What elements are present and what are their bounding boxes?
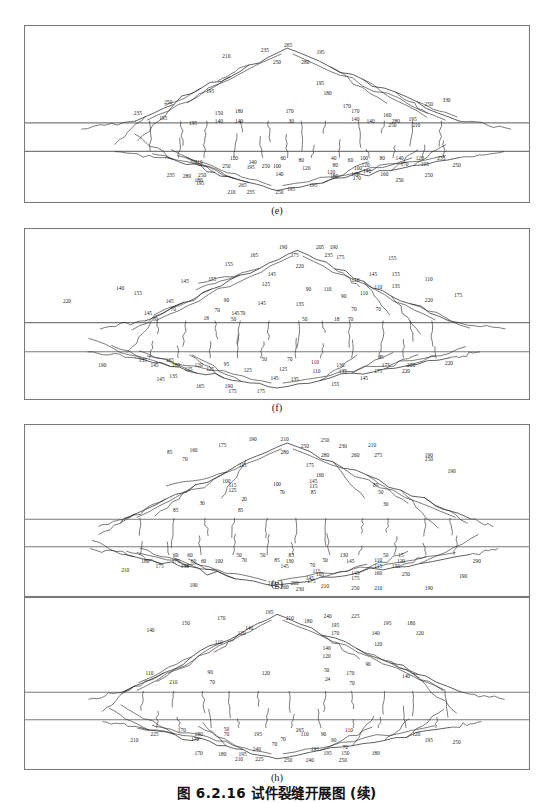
crack-load-label: 250	[339, 758, 347, 764]
panel-h: 1951702102402251501801951801401401951201…	[24, 597, 530, 770]
crack-load-label: 195	[316, 81, 324, 87]
crack-load-label: 30	[383, 503, 388, 509]
crack-load-label: 280	[301, 61, 309, 67]
crack-load-label: 110	[313, 369, 321, 375]
crack-load-label: 70	[349, 681, 354, 687]
crack-load-label: 195	[421, 162, 429, 168]
crack-load-label: 175	[291, 254, 299, 260]
crack-load-label: 275	[374, 453, 382, 459]
crack-load-label: 195	[331, 624, 339, 630]
crack-load-label: 175	[257, 390, 265, 396]
crack-load-label: 110	[301, 733, 309, 739]
crack-load-label: 50	[383, 554, 388, 560]
crack-load-label: 195	[189, 121, 197, 127]
crack-load-label: 195	[311, 747, 319, 753]
crack-load-label: 110	[324, 287, 332, 293]
crack-load-label: 135	[339, 369, 347, 375]
crack-load-label: 235	[325, 254, 333, 260]
crack-load-label: 125	[244, 368, 252, 374]
crack-load-label: 220	[402, 369, 410, 375]
crack-load-label: 280	[183, 174, 191, 180]
panel-sublabel-e: (e)	[24, 205, 530, 216]
crack-load-label: 135	[139, 359, 147, 365]
crack-load-label: 95	[224, 362, 229, 368]
crack-load-label: 50	[378, 490, 383, 496]
crack-load-label: 145	[181, 279, 189, 285]
crack-load-label: 195	[383, 621, 391, 627]
crack-load-label: 60	[280, 157, 285, 163]
crack-load-label: 180	[407, 621, 415, 627]
crack-load-label: 70	[240, 311, 245, 317]
crack-load-label: 250	[425, 174, 433, 180]
crack-load-label: 85	[274, 558, 279, 564]
crack-load-label: 145	[346, 559, 354, 565]
crack-load-label: 125	[184, 367, 192, 373]
crack-load-label: 80	[299, 158, 304, 164]
crack-load-label: 210	[286, 616, 294, 622]
crack-load-label: 145	[144, 311, 152, 317]
crack-load-label: 125	[228, 488, 236, 494]
crack-load-label: 90	[306, 287, 311, 293]
crack-load-label: 70	[351, 307, 356, 313]
crack-load-label: 120	[374, 642, 382, 648]
crack-load-label: 125	[262, 282, 270, 288]
crack-load-label: 170	[195, 752, 203, 758]
crack-load-label: 150	[182, 621, 190, 627]
crack-load-label: 250	[425, 102, 433, 108]
crack-load-label: 150	[341, 751, 349, 757]
crack-load-label: 50	[322, 558, 327, 564]
crack-load-label: 155	[392, 273, 400, 279]
crack-load-label: 175	[306, 464, 314, 470]
crack-load-label: 20	[241, 497, 246, 503]
crack-load-label: 145	[270, 376, 278, 382]
crack-load-label: 120	[323, 654, 331, 660]
crack-load-label: 175	[218, 443, 226, 449]
panel-g: 1902102501752502302108516028028026027519…	[24, 424, 530, 597]
crack-load-label: 135	[392, 285, 400, 291]
crack-load-label: 225	[255, 757, 263, 763]
crack-load-label: 195	[196, 182, 204, 188]
crack-load-label: 50	[262, 357, 267, 363]
crack-load-label: 250	[321, 439, 329, 445]
figure-caption: 图 6.2.16 试件裂缝开展图 (续)	[0, 782, 554, 802]
crack-load-label: 330	[442, 98, 450, 104]
crack-load-label: 260	[351, 453, 359, 459]
crack-load-label: 250	[388, 123, 396, 129]
crack-load-label: 90	[321, 733, 326, 739]
crack-load-label: 110	[146, 671, 154, 677]
panel-sublabel-h: (h)	[24, 772, 530, 783]
crack-load-label: 240	[253, 747, 261, 753]
panel-e: 2102352652502801951952502351951951501401…	[24, 25, 530, 203]
crack-load-label: 290	[473, 560, 481, 566]
crack-load-label: 210	[227, 190, 235, 196]
crack-load-label: 70	[280, 737, 285, 743]
crack-load-label: 210	[222, 54, 230, 60]
crack-load-label: 145	[281, 564, 289, 570]
crack-load-label: 195	[287, 187, 295, 193]
crack-load-label: 140	[245, 626, 253, 632]
crack-load-label: 235	[437, 157, 445, 163]
crack-load-label: 110	[360, 291, 368, 297]
crack-load-label: 190	[330, 245, 338, 251]
crack-load-label: 90	[365, 663, 370, 669]
panel-sublabel-g: (g)	[24, 578, 530, 589]
crack-load-label: 250	[222, 164, 230, 170]
crack-load-label: 140	[146, 628, 154, 634]
crack-load-label: 235	[247, 190, 255, 196]
crack-load-label: 110	[425, 277, 433, 283]
crack-load-label: 115	[374, 564, 382, 570]
crack-load-label: 250	[425, 457, 433, 463]
crack-load-label: 175	[172, 560, 180, 566]
crack-load-label: 225	[150, 733, 158, 739]
crack-load-label: 145	[360, 376, 368, 382]
crack-load-label: 250	[198, 174, 206, 180]
crack-load-label: 155	[392, 564, 400, 570]
crack-load-label: 70	[209, 680, 214, 686]
crack-load-label: 210	[235, 757, 243, 763]
crack-load-label: 170	[286, 109, 294, 115]
crack-load-label: 140	[275, 173, 283, 179]
crack-load-label: 210	[368, 443, 376, 449]
crack-load-label: 145	[268, 273, 276, 279]
crack-load-label: 165	[250, 254, 258, 260]
crack-load-label: 180	[324, 91, 332, 97]
